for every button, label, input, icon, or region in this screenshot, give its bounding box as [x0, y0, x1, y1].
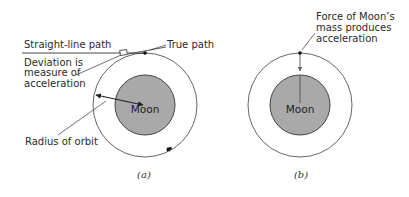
panel-a: Moon Straight-line path True path Deviat… [22, 39, 214, 180]
force-leader [302, 33, 315, 50]
panel-b: Moon Force of Moon’s mass produces accel… [248, 11, 395, 180]
force-label-1: Force of Moon’s [316, 11, 395, 22]
caption-b: (b) [294, 169, 308, 180]
orbit-diagram: Moon Straight-line path True path Deviat… [0, 0, 409, 197]
true-path-label: True path [166, 39, 214, 50]
moon-label-a: Moon [131, 103, 160, 115]
moon-position-dot-a [143, 51, 147, 55]
force-label-3: acceleration [316, 33, 378, 44]
radius-leader [58, 101, 106, 135]
deviation-label-3: acceleration [24, 78, 86, 89]
radius-label: Radius of orbit [25, 136, 98, 147]
caption-a: (a) [137, 169, 151, 180]
force-label-2: mass produces [316, 22, 391, 33]
straight-line-path-label: Straight-line path [24, 39, 111, 50]
deviation-marker [120, 50, 128, 56]
deviation-label-2: measure of [24, 67, 81, 78]
moon-position-dot-b [298, 51, 302, 55]
moon-label-b: Moon [286, 103, 315, 115]
